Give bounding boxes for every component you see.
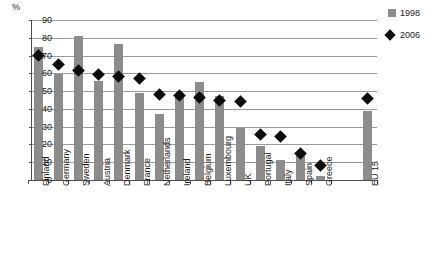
marker-portugal [254, 128, 267, 141]
legend-label-1998: 1998 [400, 9, 420, 18]
chart-container: % 0102030405060708090 FinlandGermanySwed… [0, 0, 434, 257]
x-label-ireland: Ireland [183, 158, 192, 186]
y-axis-unit-label: % [12, 2, 20, 12]
y-tick-mark [29, 127, 32, 128]
y-tick-mark [29, 91, 32, 92]
marker-eu-15 [361, 92, 374, 105]
gridline [32, 20, 377, 21]
y-tick-mark [29, 56, 32, 57]
bar-uk [236, 128, 245, 180]
chart-legend: 1998 2006 [388, 8, 420, 52]
marker-uk [234, 95, 247, 108]
x-label-germany: Germany [62, 149, 71, 186]
diamond-swatch-icon [388, 31, 396, 39]
x-label-belgium: Belgium [204, 153, 213, 186]
square-swatch-icon [388, 9, 396, 17]
gridline [32, 73, 377, 74]
x-label-greece: Greece [325, 156, 334, 186]
x-label-denmark: Denmark [123, 149, 132, 186]
y-tick-mark [29, 144, 32, 145]
x-label-france: France [143, 158, 152, 186]
gridline [32, 144, 377, 145]
y-tick-mark [29, 38, 32, 39]
legend-label-2006: 2006 [400, 31, 420, 40]
y-tick-mark [29, 73, 32, 74]
x-label-spain: Spain [305, 163, 314, 186]
x-label-finland: Finland [42, 156, 51, 186]
gridline [32, 127, 377, 128]
legend-item-1998[interactable]: 1998 [388, 8, 420, 18]
y-tick-mark [29, 20, 32, 21]
x-label-sweden: Sweden [82, 153, 91, 186]
marker-austria [92, 68, 105, 81]
gridline [32, 91, 377, 92]
x-label-portugal: Portugal [264, 152, 273, 186]
x-label-netherlands: Netherlands [163, 137, 172, 186]
marker-italy [274, 130, 287, 143]
gridline [32, 38, 377, 39]
x-label-austria: Austria [103, 158, 112, 186]
marker-germany [52, 58, 65, 71]
gridline [32, 109, 377, 110]
y-tick-mark [29, 180, 32, 181]
x-label-italy: Italy [284, 169, 293, 186]
x-label-eu-15: EU 15 [371, 161, 380, 186]
y-axis-line [31, 20, 32, 180]
y-tick-mark [29, 162, 32, 163]
x-label-luxembourg: Luxembourg [224, 136, 233, 186]
legend-item-2006[interactable]: 2006 [388, 30, 420, 40]
y-tick-mark [29, 109, 32, 110]
x-label-uk: UK [244, 173, 253, 186]
gridline [32, 56, 377, 57]
